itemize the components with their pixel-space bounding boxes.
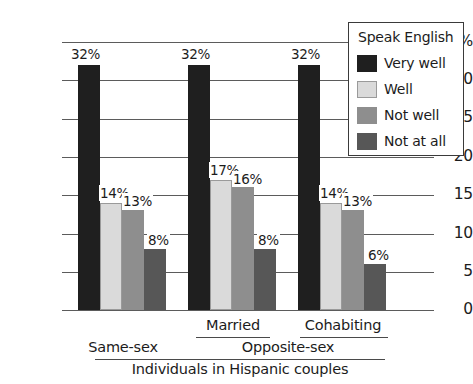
bar-same-sex-very-well [78, 65, 100, 310]
bar-value-cohabiting-very-well: 32% [290, 46, 321, 62]
bracket-married [196, 337, 270, 338]
bar-married-very-well [188, 65, 210, 310]
legend-swatch-well [357, 81, 377, 98]
bracket-cohabiting [300, 337, 388, 338]
ytick-label-15: 15 [418, 185, 473, 203]
bar-cohabiting-well [320, 203, 342, 310]
legend-label-very-well: Very well [384, 55, 446, 71]
legend-item-not-well: Not well [357, 102, 463, 128]
axis-baseline [62, 310, 434, 311]
bar-group-married [188, 74, 278, 310]
category-label-cohabiting: Cohabiting [288, 317, 398, 333]
bar-value-married-very-well: 32% [180, 46, 211, 62]
bar-same-sex-well [100, 203, 122, 310]
bar-cohabiting-very-well [298, 65, 320, 310]
bar-married-well [210, 180, 232, 310]
category-label-married: Married [178, 317, 288, 333]
legend-swatch-not-well [357, 107, 377, 124]
legend-item-not-at-all: Not at all [357, 128, 463, 154]
legend-swatch-not-at-all [357, 133, 377, 150]
category-label-same-sex: Same-sex [68, 339, 178, 355]
bar-married-not-at-all [254, 249, 276, 310]
bar-married-not-well [232, 187, 254, 310]
legend-label-well: Well [384, 81, 413, 97]
bar-value-same-sex-not-well: 13% [122, 193, 153, 209]
bar-value-same-sex-very-well: 32% [70, 46, 101, 62]
bar-value-married-not-well: 16% [232, 171, 263, 187]
bar-same-sex-not-well [122, 210, 144, 310]
axis-caption: Individuals in Hispanic couples [95, 361, 385, 377]
ytick-label-10: 10 [418, 224, 473, 242]
legend-swatch-very-well [357, 55, 377, 72]
category-label-opposite-sex: Opposite-sex [233, 339, 343, 355]
ytick-label-0: 0 [418, 300, 473, 318]
ytick-label-5: 5 [418, 262, 473, 280]
bar-same-sex-not-at-all [144, 249, 166, 310]
bar-cohabiting-not-well [342, 210, 364, 310]
legend-item-well: Well [357, 76, 463, 102]
bar-value-cohabiting-not-well: 13% [342, 193, 373, 209]
bar-value-married-not-at-all: 8% [257, 232, 280, 248]
plot-area: 35% 30 25 20 15 10 5 0 32% 14% 13% 8% [0, 0, 473, 384]
bar-chart: 35% 30 25 20 15 10 5 0 32% 14% 13% 8% [0, 0, 473, 384]
legend-title: Speak English [358, 29, 463, 45]
bracket-same-sex [95, 359, 385, 360]
legend-item-very-well: Very well [357, 50, 463, 76]
legend-label-not-well: Not well [384, 107, 439, 123]
legend-label-not-at-all: Not at all [384, 133, 446, 149]
bar-value-cohabiting-not-at-all: 6% [367, 247, 390, 263]
bar-value-same-sex-not-at-all: 8% [147, 232, 170, 248]
bar-cohabiting-not-at-all [364, 264, 386, 310]
legend: Speak English Very well Well Not well No… [348, 22, 464, 156]
gridline-35 [62, 42, 348, 43]
